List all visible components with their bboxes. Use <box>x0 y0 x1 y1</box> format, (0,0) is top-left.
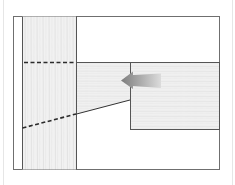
horizontal-beam <box>131 63 220 130</box>
vertical-post <box>22 17 76 170</box>
joint-diagram <box>0 0 235 185</box>
